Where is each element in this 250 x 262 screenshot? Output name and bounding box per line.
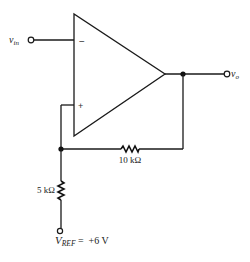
resistor-5k-label: 5 kΩ <box>37 185 55 195</box>
resistor-5k <box>58 181 64 200</box>
vin-label: vin <box>9 34 19 47</box>
vref-label-value: = +6 V <box>75 235 109 246</box>
vo-terminal[interactable] <box>224 71 230 77</box>
vref-label-sub: REF <box>61 239 76 248</box>
vref-label: VREF = +6 V <box>55 234 110 248</box>
opamp-triangle <box>74 14 165 136</box>
circuit-diagram: − + vin vo 10 kΩ 5 kΩ VREF = +6 V <box>0 0 250 262</box>
vo-label-sub: o <box>235 73 239 81</box>
vin-label-sub: in <box>13 39 19 47</box>
vref-terminal[interactable] <box>57 228 62 233</box>
resistor-10k <box>121 146 139 152</box>
resistor-10k-label: 10 kΩ <box>119 155 142 165</box>
noninverting-input-sign: + <box>78 101 83 111</box>
inverting-input-sign: − <box>79 36 85 47</box>
vo-label: vo <box>231 68 239 81</box>
vin-terminal[interactable] <box>28 37 34 43</box>
